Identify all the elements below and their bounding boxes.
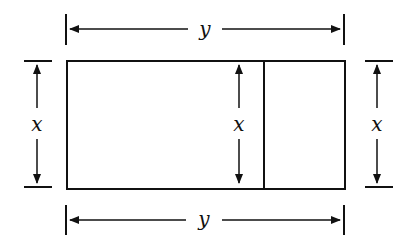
middle-height-label: x [233, 112, 244, 136]
right-dimension: x [365, 61, 393, 187]
left-height-label: x [31, 112, 42, 136]
outer-rectangle [67, 61, 345, 189]
bottom-width-label: y [197, 207, 210, 231]
top-dimension: y [66, 14, 344, 45]
diagram-canvas: y y x x x [0, 0, 410, 250]
top-width-label: y [198, 17, 211, 41]
bottom-dimension: y [66, 205, 344, 235]
left-dimension: x [24, 61, 52, 187]
middle-dimension: x [233, 65, 244, 183]
right-height-label: x [371, 112, 382, 136]
